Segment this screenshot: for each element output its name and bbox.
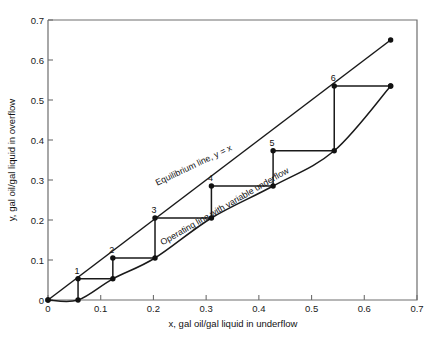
stage-number-3: 3 bbox=[151, 205, 156, 215]
stage-number-2: 2 bbox=[109, 245, 114, 255]
x-tick-label-1: 0.1 bbox=[94, 303, 107, 314]
x-tick-label-3: 0.3 bbox=[199, 303, 212, 314]
x-axis-ticks bbox=[48, 295, 417, 300]
plot-canvas bbox=[0, 0, 434, 346]
figure-mccabe-thiele-extraction-chart: 0 0.1 0.2 0.3 0.4 0.5 0.6 0.7 0 0.1 0.2 … bbox=[0, 0, 434, 346]
stage-number-4: 4 bbox=[208, 173, 213, 183]
series-group bbox=[45, 37, 393, 302]
x-tick-label-7: 0.7 bbox=[410, 303, 423, 314]
x-tick-label-4: 0.4 bbox=[252, 303, 265, 314]
y-tick-label-3: 0.3 bbox=[31, 175, 44, 186]
x-tick-label-6: 0.6 bbox=[358, 303, 371, 314]
y-tick-label-2: 0.2 bbox=[31, 215, 44, 226]
x-tick-label-0: 0 bbox=[45, 303, 50, 314]
staircase-steps bbox=[78, 86, 391, 300]
x-axis-title: x, gal oil/gal liquid in underflow bbox=[169, 318, 298, 329]
stage-number-6: 6 bbox=[331, 73, 336, 83]
y-tick-label-0: 0 bbox=[39, 295, 44, 306]
y-tick-label-6: 0.6 bbox=[31, 55, 44, 66]
stage-number-1: 1 bbox=[75, 266, 80, 276]
y-axis-ticks bbox=[48, 20, 53, 300]
operating-line bbox=[48, 86, 391, 302]
y-tick-label-1: 0.1 bbox=[31, 255, 44, 266]
y-tick-label-5: 0.5 bbox=[31, 95, 44, 106]
x-tick-label-2: 0.2 bbox=[147, 303, 160, 314]
y-tick-label-4: 0.4 bbox=[31, 135, 44, 146]
equilibrium-line bbox=[48, 40, 391, 300]
x-tick-label-5: 0.5 bbox=[305, 303, 318, 314]
y-tick-label-7: 0.7 bbox=[31, 15, 44, 26]
y-axis-title: y, gal oil/gal liquid in overflow bbox=[6, 99, 17, 221]
stage-number-5: 5 bbox=[270, 138, 275, 148]
